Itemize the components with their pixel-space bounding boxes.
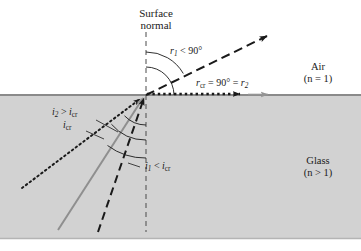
angle-label-icr-subscript: cr [66, 124, 72, 132]
angle-label-i1: i1 < icr [145, 160, 170, 171]
surface-normal-label: Surface normal [125, 7, 187, 32]
glass-medium-index: (n > 1) [288, 167, 348, 179]
angle-label-r1-subscript: 1 [174, 50, 178, 58]
surface-normal-label-line1: Surface [125, 7, 187, 19]
diagram-canvas [0, 0, 361, 251]
angle-label-rcr-relation: = 90° = [206, 77, 241, 88]
optics-diagram: Surface normal r1 < 90° rcr = 90° = r2 i… [0, 0, 361, 251]
angle-label-rcr-subscript2: 2 [245, 82, 249, 90]
glass-medium-name: Glass [288, 155, 348, 167]
angle-label-r1: r1 < 90° [170, 45, 202, 56]
angle-label-r1-relation: < 90° [178, 45, 203, 56]
angle-label-i2-subscript: 2 [55, 111, 59, 119]
angle-label-i1-subscript2: cr [165, 165, 171, 173]
angle-label-i1-relation: < [151, 160, 162, 171]
air-medium-name: Air [290, 61, 346, 73]
surface-normal-label-line2: normal [125, 19, 187, 31]
air-medium-label: Air (n = 1) [290, 61, 346, 85]
angle-label-i2: i2 > icr [52, 106, 77, 117]
angle-label-icr: icr [63, 119, 71, 130]
angle-label-i2-relation: > [58, 106, 69, 117]
angle-label-i2-subscript2: cr [72, 111, 78, 119]
angle-label-rcr-subscript: cr [200, 82, 206, 90]
glass-medium-label: Glass (n > 1) [288, 155, 348, 179]
air-medium-index: (n = 1) [290, 73, 346, 85]
angle-label-rcr: rcr = 90° = r2 [196, 77, 248, 88]
angle-label-i1-subscript: 1 [148, 165, 152, 173]
